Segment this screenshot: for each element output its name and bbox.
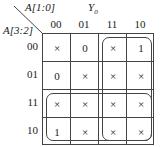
cell-00-01: 0 [71,34,99,62]
row-header-10: 10 [12,124,38,136]
col-var-text: A[1:0] [25,1,55,13]
row-header-11: 11 [12,96,38,108]
output-title: Y0 [88,1,98,16]
row-header-01: 01 [12,68,38,80]
row-variable-label: A[3:2] [3,24,33,36]
col-header-10: 10 [126,18,154,30]
cell-01-01: × [71,62,99,90]
col-header-11: 11 [98,18,126,30]
column-variable-label: A[1:0] [25,1,55,13]
cell-01-00: 0 [43,62,71,90]
cell-00-00: × [43,34,71,62]
col-header-00: 00 [42,18,70,30]
col-header-01: 01 [70,18,98,30]
karnaugh-map-grid: × 0 × 1 0 × × × × × × × 1 × × × [42,33,154,145]
group-rows-11-10 [46,93,152,141]
row-header-00: 00 [12,40,38,52]
